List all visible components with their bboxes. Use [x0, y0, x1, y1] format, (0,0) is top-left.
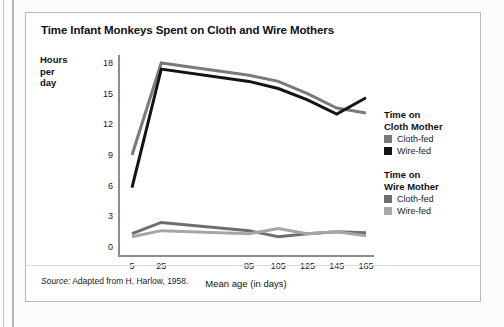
y-tick-15: 15: [103, 89, 113, 99]
legend-group-1: Time onWire MotherCloth-fedWire-fed: [384, 169, 479, 216]
plot-area: 0369121518 52585105125145165: [118, 55, 374, 255]
y-tick-6: 6: [108, 181, 113, 191]
series-line-0: [132, 63, 366, 155]
y-axis-title-line-2: per: [40, 66, 90, 78]
y-tick-0: 0: [108, 242, 113, 252]
x-tick-145: 145: [329, 261, 344, 271]
y-tick-9: 9: [108, 150, 113, 160]
legend-heading-line-2: Cloth Mother: [384, 121, 479, 133]
x-tick-25: 25: [156, 261, 166, 271]
legend-group-heading-1: Time onWire Mother: [384, 169, 479, 192]
x-tick-125: 125: [300, 261, 315, 271]
legend-swatch-icon: [384, 147, 392, 155]
x-axis-line: [118, 255, 374, 257]
y-axis-title-line-3: day: [40, 77, 90, 89]
x-tick-85: 85: [244, 261, 254, 271]
x-tick-105: 105: [271, 261, 286, 271]
y-tick-18: 18: [103, 58, 113, 68]
source-text: Adapted from H. Harlow, 1958.: [70, 276, 188, 286]
source-divider: [26, 265, 480, 266]
page-edge-line-inner: [12, 0, 14, 327]
legend-item-label: Wire-fed: [397, 146, 431, 156]
legend-group-heading-0: Time onCloth Mother: [384, 109, 479, 132]
legend-swatch-icon: [384, 207, 392, 215]
legend-group-0: Time onCloth MotherCloth-fedWire-fed: [384, 109, 479, 156]
chart-title: Time Infant Monkeys Spent on Cloth and W…: [41, 24, 334, 36]
x-tick-165: 165: [358, 261, 373, 271]
legend-item-label: Wire-fed: [397, 206, 431, 216]
legend-item-label: Cloth-fed: [397, 134, 434, 144]
legend-swatch-icon: [384, 195, 392, 203]
legend-heading-line-1: Time on: [384, 109, 479, 121]
legend-item-1-0[interactable]: Cloth-fed: [384, 194, 479, 204]
chart-legend: Time onCloth MotherCloth-fedWire-fedTime…: [384, 109, 479, 229]
x-tick-5: 5: [129, 261, 134, 271]
legend-heading-line-2: Wire Mother: [384, 181, 479, 193]
y-axis-title-line-1: Hours: [40, 54, 90, 66]
series-lines: [118, 55, 374, 255]
y-axis-title: Hours per day: [40, 54, 90, 89]
legend-item-label: Cloth-fed: [397, 194, 434, 204]
series-line-1: [132, 69, 366, 188]
page-edge-line-outer: [3, 0, 4, 327]
legend-item-1-1[interactable]: Wire-fed: [384, 206, 479, 216]
source-note: Source: Adapted from H. Harlow, 1958.: [41, 276, 188, 286]
legend-item-0-0[interactable]: Cloth-fed: [384, 134, 479, 144]
source-label: Source:: [41, 276, 70, 286]
y-tick-3: 3: [108, 211, 113, 221]
y-tick-12: 12: [103, 119, 113, 129]
figure-container: Time Infant Monkeys Spent on Cloth and W…: [25, 12, 481, 302]
figure-page: Time Infant Monkeys Spent on Cloth and W…: [0, 0, 504, 327]
legend-swatch-icon: [384, 135, 392, 143]
legend-heading-line-1: Time on: [384, 169, 479, 181]
legend-item-0-1[interactable]: Wire-fed: [384, 146, 479, 156]
